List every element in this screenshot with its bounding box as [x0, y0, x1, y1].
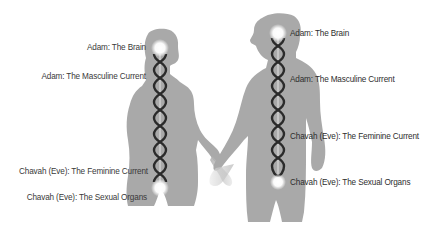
man-silhouette [213, 13, 325, 222]
left-brain-glow [151, 39, 169, 57]
right-helix [272, 38, 284, 176]
right-brain-glow [269, 24, 287, 42]
left-label-feminine-current: Chavah (Eve): The Feminine Current [19, 167, 148, 177]
left-label-sexual-organs: Chavah (Eve): The Sexual Organs [27, 193, 147, 203]
right-organs-glow [270, 174, 286, 190]
left-label-brain: Adam: The Brain [87, 43, 146, 53]
left-label-masculine-current: Adam: The Masculine Current [41, 72, 146, 82]
right-label-sexual-organs: Chavah (Eve): The Sexual Organs [290, 178, 410, 188]
woman-silhouette [127, 29, 221, 206]
right-label-masculine-current: Adam: The Masculine Current [290, 75, 395, 85]
left-organs-glow [151, 179, 169, 197]
diagram-stage: Adam: The Brain Adam: The Masculine Curr… [0, 0, 438, 241]
diagram-illustration [0, 0, 438, 241]
right-label-brain: Adam: The Brain [290, 29, 349, 39]
right-label-feminine-current: Chavah (Eve): The Feminine Current [290, 132, 419, 142]
